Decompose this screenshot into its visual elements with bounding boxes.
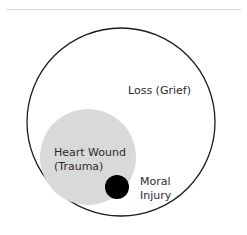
- moral-injury-label-line1: Moral: [140, 175, 171, 188]
- loss-label: Loss (Grief): [128, 84, 191, 97]
- heart-wound-label-line2: (Trauma): [54, 160, 103, 173]
- moral-injury-label-line2: Injury: [140, 189, 171, 202]
- moral-injury-dot: [105, 175, 129, 199]
- heart-wound-label-line1: Heart Wound: [54, 146, 126, 159]
- nested-circles-diagram: [0, 0, 247, 235]
